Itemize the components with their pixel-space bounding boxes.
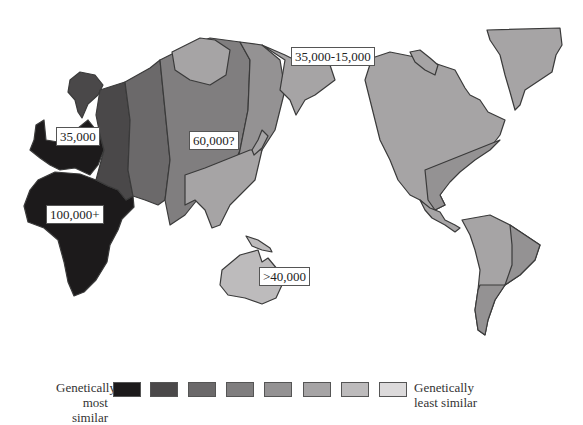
legend-swatch-8 bbox=[379, 382, 407, 397]
legend-right-line1: Genetically bbox=[414, 380, 477, 395]
legend-left-label: Genetically most similar bbox=[56, 380, 108, 425]
africa-region bbox=[24, 172, 134, 296]
legend-swatch-6 bbox=[303, 382, 331, 397]
legend-swatch-2 bbox=[150, 382, 178, 397]
new-guinea-region bbox=[246, 236, 272, 252]
legend-right-label: Genetically least similar bbox=[414, 380, 477, 410]
south-america-region bbox=[462, 215, 540, 335]
similarity-legend: Genetically most similar Genetically lea… bbox=[0, 360, 583, 410]
south-america-south-band bbox=[475, 285, 505, 335]
legend-swatch-7 bbox=[341, 382, 369, 397]
legend-left-line2: most similar bbox=[56, 395, 108, 425]
beringia-date-label: 35,000-15,000 bbox=[291, 47, 375, 66]
legend-left-line1: Genetically bbox=[56, 380, 108, 395]
legend-swatch-1 bbox=[113, 382, 141, 397]
legend-right-line2: least similar bbox=[414, 395, 477, 410]
greenland-region bbox=[487, 28, 562, 110]
legend-swatch-4 bbox=[226, 382, 254, 397]
legend-swatch-5 bbox=[264, 382, 292, 397]
europe-date-label: 35,000 bbox=[56, 127, 100, 146]
australia-date-label: >40,000 bbox=[259, 267, 310, 286]
legend-swatch-3 bbox=[188, 382, 216, 397]
africa-date-label: 100,000+ bbox=[46, 205, 104, 224]
asia-date-label: 60,000? bbox=[189, 131, 239, 150]
